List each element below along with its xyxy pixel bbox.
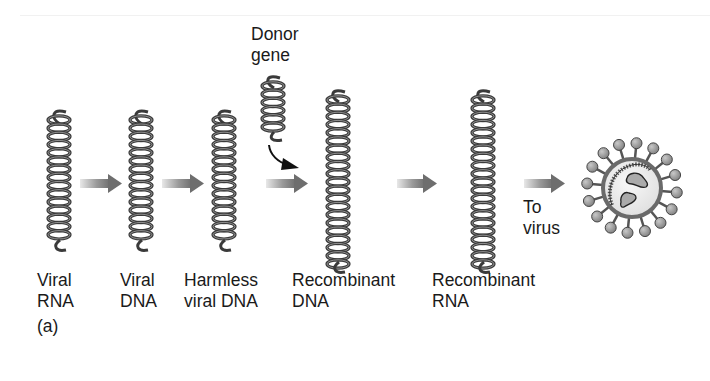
label-line: Viral bbox=[120, 270, 157, 291]
label-to-virus: To virus bbox=[523, 197, 560, 239]
label-viral-rna: Viral RNA bbox=[37, 270, 74, 312]
label-line: viral DNA bbox=[184, 291, 258, 312]
label-recombinant-rna: Recombinant RNA bbox=[432, 270, 535, 312]
arrow-dna-to-harmless bbox=[162, 174, 204, 193]
label-line: gene bbox=[251, 45, 299, 66]
panel-label: (a) bbox=[37, 316, 58, 337]
arrow-rna-to-virus bbox=[524, 174, 565, 193]
arrow-harmless-to-recombinant bbox=[266, 174, 308, 193]
coil-viral-dna bbox=[130, 111, 152, 250]
label-line: Viral bbox=[37, 270, 74, 291]
label-line: Harmless bbox=[184, 270, 258, 291]
label-line: Recombinant bbox=[292, 270, 395, 291]
label-recombinant-dna: Recombinant DNA bbox=[292, 270, 395, 312]
label-line: To bbox=[523, 197, 560, 218]
label-viral-dna: Viral DNA bbox=[120, 270, 157, 312]
donor-insert-arrow bbox=[269, 145, 299, 170]
coil-harmless-viral-dna bbox=[213, 111, 235, 250]
coil-recombinant-rna bbox=[472, 91, 494, 272]
label-line: RNA bbox=[432, 291, 535, 312]
label-line: Donor bbox=[251, 24, 299, 45]
label-line: DNA bbox=[120, 291, 157, 312]
arrow-dna-to-rna bbox=[397, 174, 437, 193]
label-line: RNA bbox=[37, 291, 74, 312]
coil-viral-rna bbox=[48, 111, 70, 250]
coil-donor-gene bbox=[262, 77, 284, 141]
label-line: Recombinant bbox=[432, 270, 535, 291]
label-donor-gene: Donor gene bbox=[251, 24, 299, 66]
label-line: DNA bbox=[292, 291, 395, 312]
virus-particle-icon bbox=[582, 138, 683, 239]
arrow-rna-to-dna bbox=[80, 174, 122, 193]
label-harmless-viral-dna: Harmless viral DNA bbox=[184, 270, 258, 312]
label-line: virus bbox=[523, 218, 560, 239]
coil-recombinant-dna bbox=[327, 91, 349, 272]
